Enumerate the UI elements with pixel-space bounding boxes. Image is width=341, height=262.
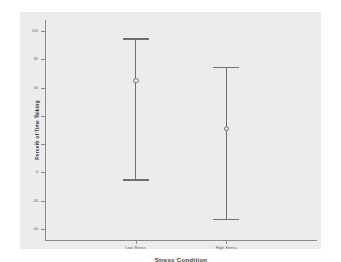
y-axis-title: Percent of Time Talking xyxy=(34,70,40,190)
y-tick xyxy=(41,172,45,173)
y-tick xyxy=(41,88,45,89)
chart-canvas: 100806040200-20-40 Low StressHigh Stress… xyxy=(20,12,321,249)
error-bar-upper-cap xyxy=(213,67,239,68)
x-axis-title: Stress Condition xyxy=(45,256,317,262)
y-tick xyxy=(41,59,45,60)
mean-marker xyxy=(224,126,230,132)
error-bar-lower-cap xyxy=(213,219,239,220)
x-tick-label: High Stress xyxy=(216,245,237,250)
x-axis-line xyxy=(45,240,317,241)
x-tick xyxy=(136,240,137,244)
mean-marker xyxy=(133,78,139,84)
y-tick-label: 100 xyxy=(32,29,38,33)
y-tick xyxy=(41,31,45,32)
error-bar-lower-cap xyxy=(123,179,149,180)
y-tick-label: -20 xyxy=(33,199,39,203)
x-tick xyxy=(226,240,227,244)
y-tick-label: -40 xyxy=(33,227,39,231)
plot-area: 100806040200-20-40 Low StressHigh Stress… xyxy=(20,12,321,249)
y-tick xyxy=(41,229,45,230)
x-tick-label: Low Stress xyxy=(126,245,146,250)
figure: 100806040200-20-40 Low StressHigh Stress… xyxy=(0,0,341,262)
error-bar-stem xyxy=(135,38,136,179)
y-tick-label: 80 xyxy=(34,57,38,61)
error-bar-stem xyxy=(226,67,227,219)
y-axis-line xyxy=(45,20,46,241)
y-tick xyxy=(41,116,45,117)
y-tick xyxy=(41,201,45,202)
y-tick xyxy=(41,144,45,145)
error-bar-upper-cap xyxy=(123,38,149,39)
